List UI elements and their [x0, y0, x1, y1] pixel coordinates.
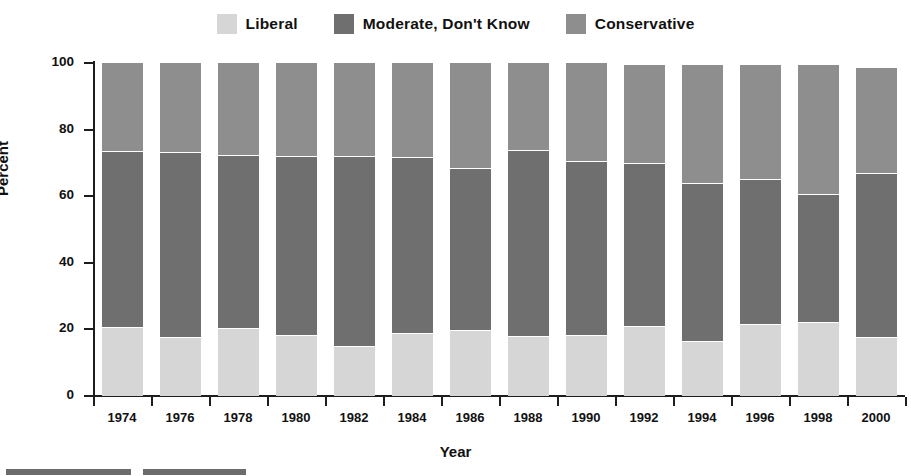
bar-segment-liberal-1976[interactable] — [160, 337, 201, 396]
y-tick-20 — [84, 328, 93, 330]
bar-segment-conservative-1984[interactable] — [392, 63, 433, 157]
bar-segment-moderate-1988[interactable] — [508, 150, 549, 336]
x-tick-1974 — [93, 397, 95, 406]
legend-item-moderate: Moderate, Don't Know — [334, 14, 530, 34]
bar-segment-moderate-1990[interactable] — [566, 161, 607, 335]
x-tick-1998 — [789, 397, 791, 406]
bar-segment-conservative-1976[interactable] — [160, 63, 201, 152]
x-axis-title: Year — [0, 443, 911, 460]
bar-segment-moderate-1996[interactable] — [740, 179, 781, 325]
x-tick-1980 — [267, 397, 269, 406]
bar-segment-moderate-1992[interactable] — [624, 163, 665, 326]
bar-1998[interactable] — [798, 65, 839, 396]
bar-1984[interactable] — [392, 63, 433, 396]
legend-swatch-liberal — [217, 14, 237, 34]
x-tick-label-1976: 1976 — [150, 410, 210, 425]
bar-1992[interactable] — [624, 65, 665, 396]
y-tick-label-40: 40 — [28, 254, 74, 269]
bar-1988[interactable] — [508, 63, 549, 396]
bar-segment-conservative-1986[interactable] — [450, 63, 491, 168]
x-tick-label-1984: 1984 — [382, 410, 442, 425]
bar-segment-conservative-2000[interactable] — [856, 68, 897, 173]
bar-1990[interactable] — [566, 63, 607, 396]
y-tick-0 — [84, 395, 93, 397]
bar-segment-conservative-1974[interactable] — [102, 63, 143, 151]
x-tick-label-1980: 1980 — [266, 410, 326, 425]
bar-segment-liberal-1990[interactable] — [566, 335, 607, 396]
bar-1982[interactable] — [334, 63, 375, 396]
bar-1978[interactable] — [218, 63, 259, 396]
bar-segment-conservative-1998[interactable] — [798, 65, 839, 194]
legend-item-conservative: Conservative — [566, 14, 695, 34]
x-tick-1992 — [615, 397, 617, 406]
bar-segment-moderate-1986[interactable] — [450, 168, 491, 330]
bar-2000[interactable] — [856, 68, 897, 396]
bar-1974[interactable] — [102, 63, 143, 396]
x-tick-label-1996: 1996 — [730, 410, 790, 425]
bar-segment-moderate-1978[interactable] — [218, 155, 259, 328]
bar-segment-conservative-1982[interactable] — [334, 63, 375, 156]
bar-segment-liberal-1988[interactable] — [508, 336, 549, 396]
x-tick-1978 — [209, 397, 211, 406]
x-tick-1982 — [325, 397, 327, 406]
bar-segment-liberal-1986[interactable] — [450, 330, 491, 396]
y-tick-label-0: 0 — [28, 387, 74, 402]
bar-1980[interactable] — [276, 63, 317, 396]
bar-segment-liberal-1992[interactable] — [624, 326, 665, 396]
chart-legend: Liberal Moderate, Don't Know Conservativ… — [0, 8, 911, 40]
bar-segment-conservative-1988[interactable] — [508, 63, 549, 150]
bar-segment-liberal-1980[interactable] — [276, 335, 317, 396]
bar-segment-moderate-1980[interactable] — [276, 156, 317, 335]
bar-segment-moderate-1982[interactable] — [334, 156, 375, 346]
bar-segment-moderate-1994[interactable] — [682, 183, 723, 341]
bar-segment-conservative-1978[interactable] — [218, 63, 259, 155]
legend-label-moderate: Moderate, Don't Know — [363, 15, 530, 33]
legend-swatch-moderate — [334, 14, 354, 34]
x-tick-label-1992: 1992 — [614, 410, 674, 425]
bar-segment-conservative-1990[interactable] — [566, 63, 607, 161]
x-tick-1984 — [383, 397, 385, 406]
x-tick-label-1982: 1982 — [324, 410, 384, 425]
plot-area — [93, 63, 905, 396]
bar-segment-moderate-1984[interactable] — [392, 157, 433, 333]
bar-1994[interactable] — [682, 65, 723, 396]
x-tick-1976 — [151, 397, 153, 406]
y-tick-label-20: 20 — [28, 320, 74, 335]
x-tick-label-1978: 1978 — [208, 410, 268, 425]
bar-segment-conservative-1992[interactable] — [624, 65, 665, 164]
x-tick-label-2000: 2000 — [846, 410, 906, 425]
bar-segment-moderate-2000[interactable] — [856, 173, 897, 337]
bar-segment-moderate-1998[interactable] — [798, 194, 839, 322]
bar-segment-liberal-1974[interactable] — [102, 327, 143, 396]
bar-segment-conservative-1980[interactable] — [276, 63, 317, 156]
legend-item-liberal: Liberal — [217, 14, 298, 34]
y-tick-80 — [84, 129, 93, 131]
bar-segment-liberal-1982[interactable] — [334, 346, 375, 396]
legend-label-liberal: Liberal — [246, 15, 298, 33]
x-tick-label-1986: 1986 — [440, 410, 500, 425]
bar-segment-liberal-1994[interactable] — [682, 341, 723, 396]
y-tick-60 — [84, 195, 93, 197]
y-tick-100 — [84, 62, 93, 64]
bar-segment-conservative-1994[interactable] — [682, 65, 723, 183]
bar-segment-moderate-1976[interactable] — [160, 152, 201, 337]
bar-1976[interactable] — [160, 63, 201, 396]
bar-segment-conservative-1996[interactable] — [740, 65, 781, 179]
bar-segment-liberal-1978[interactable] — [218, 328, 259, 396]
x-tick-label-1990: 1990 — [556, 410, 616, 425]
x-tick-end — [905, 397, 907, 406]
x-tick-label-1998: 1998 — [788, 410, 848, 425]
caption-artifact — [6, 469, 246, 475]
x-tick-label-1994: 1994 — [672, 410, 732, 425]
bar-segment-moderate-1974[interactable] — [102, 151, 143, 327]
x-tick-1990 — [557, 397, 559, 406]
x-tick-1988 — [499, 397, 501, 406]
x-tick-2000 — [847, 397, 849, 406]
bar-segment-liberal-1996[interactable] — [740, 324, 781, 396]
bar-1996[interactable] — [740, 65, 781, 396]
bar-segment-liberal-1998[interactable] — [798, 322, 839, 396]
bar-segment-liberal-2000[interactable] — [856, 337, 897, 396]
y-tick-label-80: 80 — [28, 121, 74, 136]
bar-segment-liberal-1984[interactable] — [392, 333, 433, 396]
bar-1986[interactable] — [450, 63, 491, 396]
